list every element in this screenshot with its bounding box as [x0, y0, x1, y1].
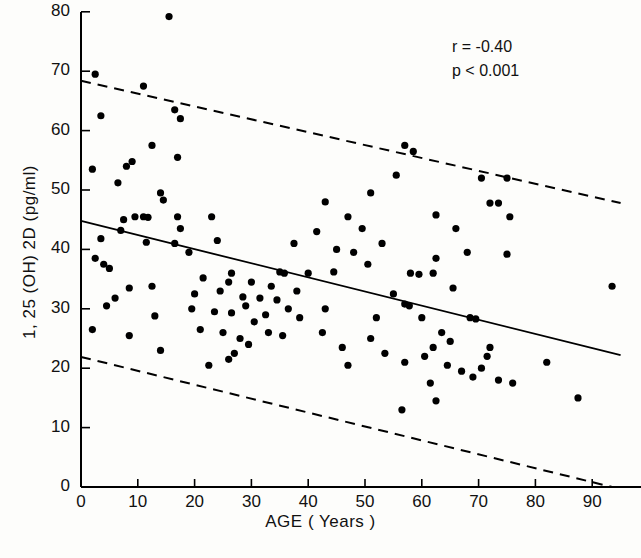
data-point: [478, 365, 485, 372]
data-point: [285, 305, 292, 312]
data-point: [217, 287, 224, 294]
y-tick-label: 40: [26, 238, 70, 258]
data-point: [472, 315, 479, 322]
data-point: [120, 216, 127, 223]
data-point: [447, 338, 454, 345]
data-point: [103, 302, 110, 309]
data-point: [393, 172, 400, 179]
data-point: [265, 329, 272, 336]
data-point: [378, 240, 385, 247]
data-point: [415, 271, 422, 278]
data-point: [421, 353, 428, 360]
data-point: [543, 359, 550, 366]
data-point: [506, 213, 513, 220]
x-tick-label: 10: [113, 492, 163, 512]
data-point: [171, 240, 178, 247]
data-point: [268, 283, 275, 290]
data-points: [89, 13, 616, 413]
data-point: [478, 175, 485, 182]
upper-confidence-line: [81, 81, 621, 203]
x-tick-label: 70: [454, 492, 504, 512]
regression-line: [81, 221, 621, 355]
x-tick-label: 80: [510, 492, 560, 512]
data-point: [242, 302, 249, 309]
y-tick-label: 30: [26, 298, 70, 318]
data-point: [367, 335, 374, 342]
data-point: [228, 270, 235, 277]
data-point: [330, 268, 337, 275]
data-point: [148, 283, 155, 290]
y-tick-label: 80: [26, 1, 70, 21]
trend-lines: [81, 81, 621, 487]
data-point: [418, 314, 425, 321]
data-point: [200, 274, 207, 281]
y-tick-label: 0: [26, 476, 70, 496]
data-point: [111, 295, 118, 302]
data-point: [430, 270, 437, 277]
data-point: [401, 359, 408, 366]
y-tick-label: 20: [26, 357, 70, 377]
x-tick-label: 60: [397, 492, 447, 512]
x-tick-label: 50: [340, 492, 390, 512]
data-point: [458, 368, 465, 375]
data-point: [205, 362, 212, 369]
data-point: [177, 225, 184, 232]
data-point: [123, 163, 130, 170]
data-point: [438, 329, 445, 336]
data-point: [281, 270, 288, 277]
data-point: [469, 374, 476, 381]
data-point: [225, 278, 232, 285]
data-point: [144, 214, 151, 221]
data-point: [143, 239, 150, 246]
data-point: [256, 295, 263, 302]
correlation-annotation: r = -0.40: [452, 38, 512, 56]
data-point: [296, 314, 303, 321]
data-point: [344, 362, 351, 369]
data-point: [174, 154, 181, 161]
data-point: [211, 308, 218, 315]
x-tick-label: 20: [170, 492, 220, 512]
data-point: [509, 379, 516, 386]
data-point: [188, 305, 195, 312]
data-point: [432, 211, 439, 218]
y-tick-label: 50: [26, 179, 70, 199]
data-point: [89, 166, 96, 173]
data-point: [339, 344, 346, 351]
data-point: [608, 283, 615, 290]
data-point: [322, 198, 329, 205]
data-point: [165, 13, 172, 20]
data-point: [171, 106, 178, 113]
data-point: [228, 309, 235, 316]
data-point: [236, 335, 243, 342]
data-point: [344, 213, 351, 220]
data-point: [406, 302, 413, 309]
data-point: [401, 142, 408, 149]
data-point: [449, 284, 456, 291]
data-point: [503, 251, 510, 258]
data-point: [290, 240, 297, 247]
x-tick-label: 30: [226, 492, 276, 512]
x-tick-label: 90: [567, 492, 617, 512]
data-point: [262, 311, 269, 318]
axis-lines: [81, 12, 641, 487]
data-point: [251, 318, 258, 325]
data-point: [427, 379, 434, 386]
x-axis-title: AGE ( Years ): [0, 512, 641, 532]
data-point: [231, 350, 238, 357]
data-point: [444, 362, 451, 369]
data-point: [313, 228, 320, 235]
data-point: [140, 82, 147, 89]
data-point: [373, 314, 380, 321]
data-point: [97, 235, 104, 242]
y-tick-label: 10: [26, 417, 70, 437]
data-point: [322, 305, 329, 312]
data-point: [129, 158, 136, 165]
data-point: [106, 265, 113, 272]
data-point: [117, 227, 124, 234]
data-point: [160, 196, 167, 203]
data-point: [495, 376, 502, 383]
data-point: [574, 394, 581, 401]
lower-confidence-line: [81, 357, 612, 487]
data-point: [390, 290, 397, 297]
data-point: [191, 290, 198, 297]
